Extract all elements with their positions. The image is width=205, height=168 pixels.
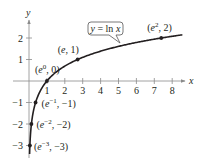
y-tick-label: −3 xyxy=(12,140,23,151)
ln-graph: x y 12345678−3−2−112 (e−3, −3)(e−2, −2)(… xyxy=(0,0,205,168)
data-point xyxy=(76,58,80,62)
data-point xyxy=(159,36,163,40)
x-tick-label: 8 xyxy=(170,85,175,96)
data-point xyxy=(28,144,32,148)
data-point xyxy=(34,101,38,105)
ln-curve xyxy=(30,35,183,154)
point-label: (e−3, −3) xyxy=(34,140,68,153)
axis-ticks: 12345678−3−2−112 xyxy=(12,33,174,152)
point-label: (e−1, −1) xyxy=(42,97,76,110)
x-tick-label: 2 xyxy=(62,85,67,96)
y-tick-label: 1 xyxy=(18,54,23,65)
function-callout: y = ln x xyxy=(88,22,123,43)
x-tick-label: 6 xyxy=(134,85,139,96)
point-label: (e, 1) xyxy=(58,44,79,56)
x-tick-label: 1 xyxy=(44,85,49,96)
data-point xyxy=(30,122,34,126)
callout-x: x xyxy=(115,23,121,34)
y-axis-label: y xyxy=(25,7,31,18)
y-tick-label: 2 xyxy=(18,33,23,44)
point-label: (e2, 2) xyxy=(147,21,172,34)
point-label: (e0, 0) xyxy=(35,63,60,76)
svg-text:y = ln x: y = ln x xyxy=(90,23,121,34)
y-tick-label: −2 xyxy=(12,119,23,130)
callout-eq: = ln xyxy=(95,23,116,34)
point-label: (e−2, −2) xyxy=(36,118,70,131)
x-tick-label: 5 xyxy=(116,85,121,96)
data-point xyxy=(45,79,49,83)
x-axis-label: x xyxy=(188,75,194,86)
x-tick-label: 4 xyxy=(98,85,103,96)
x-tick-label: 3 xyxy=(80,85,85,96)
x-tick-label: 7 xyxy=(152,85,157,96)
y-tick-label: −1 xyxy=(12,97,23,108)
